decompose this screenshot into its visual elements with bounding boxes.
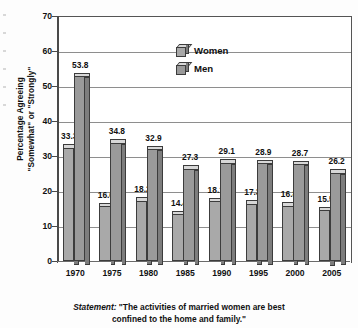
bar-front-face bbox=[74, 73, 86, 261]
x-tick-label-2005: 2005 bbox=[314, 268, 350, 278]
legend-item-men[interactable]: Men bbox=[176, 62, 213, 75]
y-tick-mark bbox=[52, 51, 57, 52]
bar-women-1980[interactable] bbox=[136, 197, 148, 265]
scan-artifact bbox=[3, 68, 6, 70]
bar-side-face bbox=[122, 144, 127, 266]
bar-front-face bbox=[63, 144, 75, 261]
bar-women-2000[interactable] bbox=[282, 202, 294, 265]
y-tick-label: 50 bbox=[28, 81, 52, 91]
bar-men-1970[interactable] bbox=[74, 73, 86, 266]
y-tick-mark bbox=[52, 86, 57, 87]
bar-front-face bbox=[330, 169, 342, 261]
y-tick-mark bbox=[52, 16, 57, 17]
bar-front-face bbox=[136, 197, 148, 261]
bar-side-face bbox=[305, 165, 310, 265]
bar-front-face bbox=[282, 202, 294, 261]
bar-front-face bbox=[147, 146, 159, 261]
x-tick-label-2000: 2000 bbox=[277, 268, 313, 278]
bar-front-face bbox=[209, 198, 221, 261]
bar-value-label: 53.8 bbox=[68, 60, 94, 70]
y-tick-label: 0 bbox=[28, 256, 52, 266]
scan-artifact bbox=[3, 32, 6, 34]
gridline bbox=[58, 87, 351, 88]
chart-caption: Statement: "The activities of married wo… bbox=[0, 302, 358, 325]
scan-artifact bbox=[3, 14, 6, 16]
y-tick-mark bbox=[52, 261, 57, 262]
bar-value-label: 28.9 bbox=[251, 147, 277, 157]
y-tick-label: 20 bbox=[28, 186, 52, 196]
bar-women-1970[interactable] bbox=[63, 144, 75, 265]
bar-front-face bbox=[99, 203, 111, 261]
bar-side-face bbox=[341, 174, 346, 266]
legend-label-women: Women bbox=[194, 45, 228, 56]
bar-front-face bbox=[246, 200, 258, 261]
bar-front-face bbox=[293, 161, 305, 261]
bar-men-2000[interactable] bbox=[293, 161, 305, 266]
x-tick-label-1990: 1990 bbox=[204, 268, 240, 278]
bar-value-label: 34.8 bbox=[104, 126, 130, 136]
y-tick-mark bbox=[52, 156, 57, 157]
legend-label-men: Men bbox=[194, 63, 213, 74]
caption-line2: confined to the home and family." bbox=[112, 314, 246, 324]
y-tick-label: 70 bbox=[28, 11, 52, 21]
scan-artifact bbox=[3, 86, 6, 88]
bar-men-1975[interactable] bbox=[110, 139, 122, 265]
bar-men-1980[interactable] bbox=[147, 146, 159, 266]
bar-value-label: 28.7 bbox=[287, 148, 313, 158]
bar-front-face bbox=[220, 159, 232, 261]
bar-top-face bbox=[147, 146, 163, 151]
scan-artifact bbox=[3, 50, 6, 52]
legend-swatch-women-icon bbox=[176, 44, 189, 57]
bar-value-label: 27.3 bbox=[177, 152, 203, 162]
bar-women-1985[interactable] bbox=[172, 211, 184, 266]
legend-item-women[interactable]: Women bbox=[176, 44, 228, 57]
y-tick-label: 60 bbox=[28, 46, 52, 56]
legend-swatch-men-icon bbox=[176, 62, 189, 75]
bar-men-1985[interactable] bbox=[183, 165, 195, 265]
bar-men-1995[interactable] bbox=[257, 160, 269, 266]
bar-front-face bbox=[172, 211, 184, 261]
x-tick-label-1985: 1985 bbox=[167, 268, 203, 278]
bar-front-face bbox=[110, 139, 122, 261]
y-tick-label: 40 bbox=[28, 116, 52, 126]
bar-value-label: 32.9 bbox=[141, 133, 167, 143]
x-tick-label-1975: 1975 bbox=[94, 268, 130, 278]
y-tick-mark bbox=[52, 191, 57, 192]
scan-artifact bbox=[3, 104, 6, 106]
bar-side-face bbox=[268, 164, 273, 265]
bar-men-1990[interactable] bbox=[220, 159, 232, 265]
bar-women-1990[interactable] bbox=[209, 198, 221, 266]
bar-top-face bbox=[257, 160, 273, 165]
bar-front-face bbox=[183, 165, 195, 261]
bar-top-face bbox=[220, 159, 236, 164]
bar-top-face bbox=[183, 165, 199, 170]
bar-front-face bbox=[319, 207, 331, 261]
bar-side-face bbox=[158, 150, 163, 265]
bar-top-face bbox=[293, 161, 309, 166]
bar-women-1995[interactable] bbox=[246, 200, 258, 265]
bar-front-face bbox=[257, 160, 269, 261]
bar-top-face bbox=[110, 139, 126, 144]
y-tick-mark bbox=[52, 121, 57, 122]
y-tick-label: 30 bbox=[28, 151, 52, 161]
caption-prefix: Statement: bbox=[73, 302, 116, 312]
caption-line1: "The activities of married women are bes… bbox=[117, 302, 285, 312]
bar-men-2005[interactable] bbox=[330, 169, 342, 265]
bar-value-label: 29.1 bbox=[214, 146, 240, 156]
bar-top-face bbox=[330, 169, 346, 174]
bar-top-face bbox=[74, 73, 90, 78]
chart-figure: Percentage Agreeing "Somewhat" or "Stron… bbox=[0, 0, 358, 328]
bar-side-face bbox=[232, 164, 237, 266]
x-tick-label-1980: 1980 bbox=[131, 268, 167, 278]
bar-value-label: 26.2 bbox=[324, 156, 350, 166]
x-tick-label-1970: 1970 bbox=[57, 268, 93, 278]
bar-women-1975[interactable] bbox=[99, 203, 111, 266]
y-tick-label: 10 bbox=[28, 221, 52, 231]
y-axis-title-line1: Percentage Agreeing bbox=[16, 44, 27, 194]
x-tick-label-1995: 1995 bbox=[240, 268, 276, 278]
bar-women-2005[interactable] bbox=[319, 207, 331, 266]
y-tick-mark bbox=[52, 226, 57, 227]
gridline bbox=[58, 122, 351, 123]
bar-side-face bbox=[195, 170, 200, 266]
bar-side-face bbox=[85, 77, 90, 265]
